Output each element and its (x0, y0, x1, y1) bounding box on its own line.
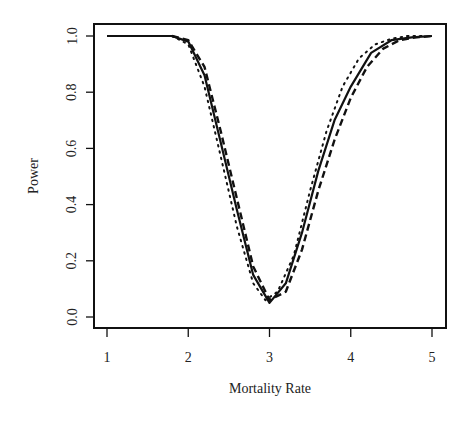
x-axis-label: Mortality Rate (229, 381, 311, 396)
x-axis: 12345 (104, 328, 436, 365)
plot-frame (94, 24, 446, 328)
y-axis-label: Power (26, 158, 41, 194)
x-tick-label: 4 (347, 350, 354, 365)
x-tick-label: 2 (185, 350, 192, 365)
y-tick-label: 0.0 (65, 308, 80, 326)
y-tick-label: 0.4 (65, 196, 80, 214)
y-tick-label: 0.2 (65, 252, 80, 270)
y-axis: 0.00.20.40.60.81.0 (65, 27, 95, 326)
series-dashed-line (172, 36, 432, 300)
y-tick-label: 0.6 (65, 140, 80, 158)
series-lines (107, 36, 432, 303)
x-tick-label: 3 (266, 350, 273, 365)
series-solid-line (107, 36, 432, 303)
x-tick-label: 1 (104, 350, 111, 365)
y-tick-label: 0.8 (65, 83, 80, 101)
power-chart: 0.00.20.40.60.81.0 12345 Mortality Rate … (0, 0, 467, 421)
x-tick-label: 5 (429, 350, 436, 365)
y-tick-label: 1.0 (65, 27, 80, 45)
